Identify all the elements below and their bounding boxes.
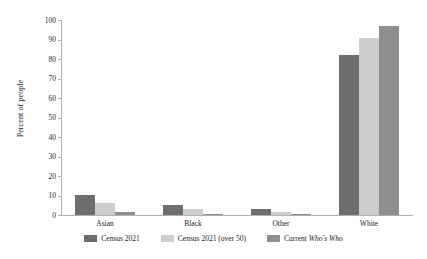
y-axis-ticks: 0102030405060708090100 [0, 20, 61, 216]
bar-black-series-2 [203, 214, 223, 215]
y-axis-tick-label: 30 [49, 151, 57, 162]
legend-swatch-icon [84, 235, 97, 242]
chart-legend: Census 2021Census 2021 (over 50)Current … [0, 234, 427, 243]
bar-white-series-2 [379, 26, 399, 215]
bar-black-series-1 [183, 209, 203, 215]
legend-label: Census 2021 [101, 234, 140, 243]
y-axis-tick-label: 100 [45, 15, 56, 26]
y-axis-tick-label: 80 [49, 54, 57, 65]
bar-group [251, 20, 311, 215]
bar-black-series-0 [163, 205, 183, 215]
bar-other-series-2 [291, 214, 311, 215]
y-axis-tick-label: 50 [49, 112, 57, 123]
x-axis-tick-label: Black [149, 219, 237, 228]
bar-group [339, 20, 399, 215]
y-axis-tick-label: 60 [49, 93, 57, 104]
y-axis-tick-label: 20 [49, 171, 57, 182]
bar-asian-series-0 [75, 195, 95, 215]
legend-swatch-icon [267, 235, 280, 242]
bar-other-series-1 [271, 212, 291, 215]
bar-white-series-0 [339, 55, 359, 215]
x-axis-line [61, 215, 413, 216]
y-axis-tick-label: 90 [49, 34, 57, 45]
legend-swatch-icon [161, 235, 174, 242]
bar-group [163, 20, 223, 215]
y-axis-tick-label: 0 [52, 210, 56, 221]
legend-label: Current Who's Who [284, 234, 343, 243]
bar-group [75, 20, 135, 215]
bar-asian-series-2 [115, 212, 135, 215]
legend-item[interactable]: Current Who's Who [267, 234, 343, 243]
x-axis-tick-label: Other [237, 219, 325, 228]
bar-white-series-1 [359, 38, 379, 215]
y-axis-tick-label: 10 [49, 190, 57, 201]
x-axis-tick-label: White [325, 219, 413, 228]
legend-item[interactable]: Census 2021 [84, 234, 140, 243]
y-axis-tick-label: 40 [49, 132, 57, 143]
bar-asian-series-1 [95, 203, 115, 215]
y-axis-tick-label: 70 [49, 73, 57, 84]
plot-area [61, 20, 413, 215]
bar-other-series-0 [251, 209, 271, 215]
legend-item[interactable]: Census 2021 (over 50) [161, 234, 246, 243]
x-axis-tick-label: Asian [61, 219, 149, 228]
bar-chart-figure: Percent of people 0102030405060708090100… [0, 0, 427, 259]
legend-label: Census 2021 (over 50) [178, 234, 246, 243]
